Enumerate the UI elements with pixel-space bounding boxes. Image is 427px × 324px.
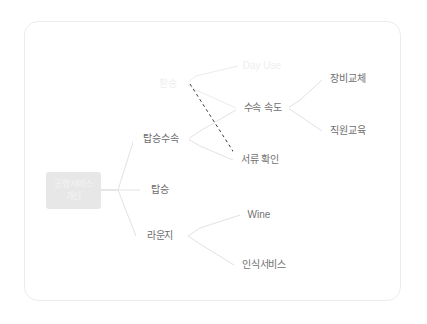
node-equipment[interactable]: 장비교체 [322, 70, 374, 88]
node-recognition[interactable]: 인식서비스 [234, 256, 294, 274]
node-root[interactable]: 공항서비스 개선 [46, 172, 101, 209]
node-root-label-line1: 공항서비스 [54, 179, 93, 190]
node-day-use[interactable]: Day Use [238, 57, 286, 75]
node-staff-training[interactable]: 직원교육 [322, 122, 374, 140]
diagram-card [24, 21, 401, 301]
node-root-label-line2: 개선 [66, 191, 82, 202]
node-wine[interactable]: Wine [240, 206, 278, 224]
node-boarding-proc[interactable]: 탑승수속 [133, 130, 189, 148]
node-checkin-speed[interactable]: 수속 속도 [236, 99, 289, 117]
node-boarding[interactable]: 탑승 [140, 181, 180, 199]
node-lounge[interactable]: 라운지 [136, 227, 184, 245]
diagram-canvas: 공항서비스 개선 환승 탑승수속 탑승 라운지 Day Use 수속 속도 서류… [0, 0, 427, 324]
node-transfer[interactable]: 환승 [148, 75, 188, 93]
node-document-check[interactable]: 서류 확인 [233, 151, 287, 169]
